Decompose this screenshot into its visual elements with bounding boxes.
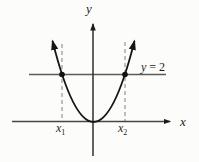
line-equation-rest: = 2 [146,60,165,74]
y-axis-label: y [84,1,92,16]
intersection-point-right [122,72,128,78]
parabola-figure: y x y = 2 x1 x2 [0,0,199,162]
x2-subscript: 2 [123,128,127,137]
x2-label: x2 [117,121,127,137]
intersection-point-left [59,72,65,78]
x1-subscript: 1 [61,128,65,137]
x1-label: x1 [55,121,65,137]
figure-canvas: y x y = 2 x1 x2 [0,0,199,162]
x-axis-label: x [179,114,186,129]
line-equation-label: y = 2 [140,60,165,74]
